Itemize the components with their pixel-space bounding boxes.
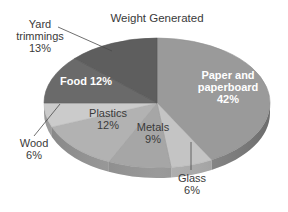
chart-title: Weight Generated: [110, 12, 203, 24]
label-line: Glass: [178, 172, 207, 184]
label-line: Food 12%: [60, 75, 112, 87]
label-line: Yard: [29, 18, 51, 30]
label-line: Plastics: [89, 107, 127, 119]
label-glass: Glass6%: [178, 172, 207, 196]
label-line: Paper and: [201, 69, 254, 81]
pie-chart: Weight Generated Paper andpaperboard42%G…: [0, 0, 288, 212]
label-line: 13%: [29, 42, 51, 54]
label-line: paperboard: [198, 81, 259, 93]
label-line: 12%: [97, 119, 119, 131]
label-food: Food 12%: [60, 75, 112, 87]
label-yard-trimmings: Yardtrimmings13%: [16, 18, 64, 54]
label-line: 6%: [26, 149, 42, 161]
label-line: 42%: [217, 93, 239, 105]
label-line: Metals: [137, 121, 170, 133]
label-line: trimmings: [16, 30, 64, 42]
label-line: 6%: [184, 184, 200, 196]
label-line: Wood: [20, 137, 49, 149]
label-wood: Wood6%: [20, 137, 49, 161]
leader-line-yard-trimmings: [58, 27, 112, 51]
label-line: 9%: [145, 133, 161, 145]
